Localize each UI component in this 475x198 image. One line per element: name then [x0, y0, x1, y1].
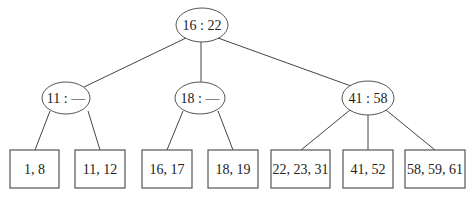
leaf-node-4: 18, 19 [208, 150, 258, 188]
edge-18-leaf4 [218, 111, 233, 150]
leaf-node-label: 16, 17 [150, 162, 185, 177]
leaf-node-label: 41, 52 [351, 162, 386, 177]
leaf-node-label: 11, 12 [83, 162, 117, 177]
internal-node-label: 41 : 58 [349, 91, 388, 106]
leaf-node-7: 58, 59, 61 [405, 150, 465, 188]
leaf-node-label: 58, 59, 61 [407, 162, 463, 177]
edge-11-leaf1 [35, 111, 50, 150]
internal-node-11: 11 : — [42, 82, 90, 114]
edge-41-leaf7 [386, 110, 435, 150]
edge-11-leaf2 [88, 111, 100, 150]
leaf-node-label: 22, 23, 31 [273, 162, 329, 177]
internal-node-41-58: 41 : 58 [342, 81, 394, 115]
leaf-node-2: 11, 12 [75, 150, 125, 188]
edge-41-leaf5 [301, 110, 350, 150]
root-node: 16 : 22 [176, 8, 228, 42]
internal-node-18: 18 : — [175, 82, 225, 114]
tree-diagram: 16 : 22 11 : — 18 : — 41 : 58 1, 8 11, 1… [0, 0, 475, 198]
internal-node-label: 11 : — [47, 91, 86, 106]
leaf-node-label: 18, 19 [216, 162, 251, 177]
root-node-label: 16 : 22 [183, 18, 222, 33]
edge-root-left [84, 38, 186, 87]
leaf-node-6: 41, 52 [343, 150, 393, 188]
edge-18-leaf3 [167, 111, 183, 150]
internal-node-label: 18 : — [181, 91, 221, 106]
leaf-node-label: 1, 8 [24, 162, 45, 177]
leaf-node-5: 22, 23, 31 [271, 150, 330, 188]
leaf-node-1: 1, 8 [10, 150, 59, 188]
edge-root-right [218, 38, 351, 86]
leaf-node-3: 16, 17 [142, 150, 192, 188]
